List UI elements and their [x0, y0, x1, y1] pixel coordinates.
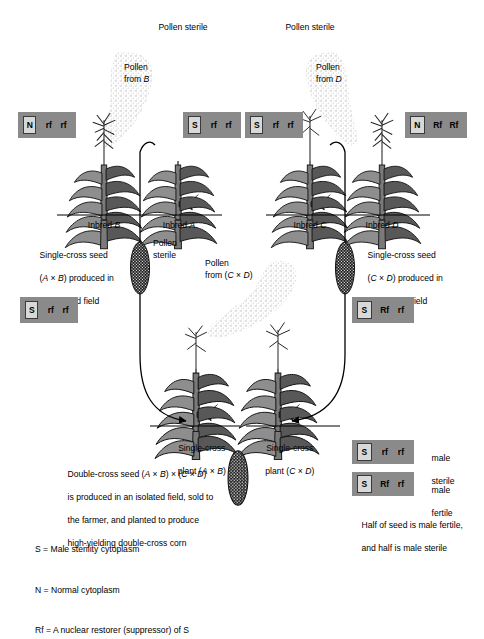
single-cross-cd-plant-label: Single-cross plant (C × D)	[240, 431, 330, 489]
allele-2: rf	[58, 305, 73, 315]
pollen-sterile-mid-label: Pollensterile	[153, 238, 177, 261]
legend-caption: Half of seed is male fertile, and half i…	[352, 508, 463, 566]
key-line-2: Rf = A nuclear restorer (suppressor) of …	[35, 624, 189, 638]
plant-label-line-1: Single-cross	[266, 443, 313, 453]
pollen-from-d-label: Pollenfrom D	[316, 62, 342, 85]
single-cross-ab-genotype-box: S rf rf	[20, 297, 78, 323]
inbred-c-genotype-box: S rf rf	[245, 112, 303, 138]
cytoplasm-symbol: S	[357, 301, 372, 319]
allele-1: Rf	[377, 305, 393, 315]
legend-male-fertile-box: S Rf rf	[352, 472, 414, 496]
cob-single-cross-ab	[131, 242, 150, 294]
pollen-sterile-right-label: Pollen sterile	[260, 22, 360, 34]
allele-2: rf	[56, 120, 71, 130]
allele-2: rf	[393, 447, 409, 457]
legend-male-sterile-box: S rf rf	[352, 440, 414, 464]
pollen-from-cd-label: Pollenfrom (C × D)	[205, 258, 253, 281]
plant-label-line-1: Single-cross	[178, 443, 225, 453]
cytoplasm-symbol: S	[25, 301, 38, 319]
allele-2: Rf	[446, 120, 462, 130]
double-cross-line-2: is produced in an isolated field, sold t…	[68, 492, 214, 502]
desc-line-1: male	[432, 485, 451, 495]
allele-1: Rf	[377, 479, 393, 489]
desc-line-1: male	[432, 453, 451, 463]
key-line-0: S = Male sterility cytoplasm	[35, 543, 189, 557]
allele-2: rf	[393, 305, 409, 315]
allele-2: rf	[393, 479, 409, 489]
key-line-1: N = Normal cytoplasm	[35, 584, 189, 598]
cytoplasm-symbol: S	[250, 116, 263, 134]
allele-1: rf	[377, 447, 393, 457]
pollen-sterile-left-label: Pollen sterile	[133, 22, 233, 34]
cob-single-cross-cd	[336, 242, 355, 294]
cytoplasm-symbol: S	[357, 475, 372, 493]
inbred-d-label: Inbred D	[342, 220, 422, 232]
note-line-1: Single-cross seed	[40, 250, 108, 260]
inbred-b-label: Inbred B	[64, 220, 144, 232]
cytoplasm-symbol: S	[188, 116, 201, 134]
note-line-1: Single-cross seed	[368, 250, 436, 260]
allele-2: rf	[283, 120, 298, 130]
inbred-d-genotype-box: N Rf Rf	[405, 112, 467, 138]
symbol-key: S = Male sterility cytoplasm N = Normal …	[35, 516, 189, 639]
cytoplasm-symbol: N	[410, 116, 425, 134]
cytoplasm-symbol: S	[357, 443, 372, 461]
pollen-from-b-label: Pollenfrom B	[124, 62, 149, 85]
caption-line-1: Half of seed is male fertile,	[362, 520, 463, 530]
inbred-c-label: Inbred C	[270, 220, 350, 232]
allele-2: rf	[221, 120, 236, 130]
cytoplasm-symbol: N	[23, 116, 36, 134]
single-cross-cd-genotype-box: S Rf rf	[352, 297, 414, 323]
inbred-b-genotype-box: N rf rf	[18, 112, 76, 138]
caption-line-2: and half is male sterile	[362, 543, 448, 553]
allele-1: rf	[268, 120, 283, 130]
plant-inbred-a	[139, 161, 217, 249]
allele-1: rf	[43, 305, 58, 315]
allele-1: Rf	[430, 120, 446, 130]
inbred-a-genotype-box: S rf rf	[183, 112, 241, 138]
allele-1: rf	[41, 120, 56, 130]
inbred-a-label: Inbred A	[139, 220, 219, 232]
allele-1: rf	[206, 120, 221, 130]
